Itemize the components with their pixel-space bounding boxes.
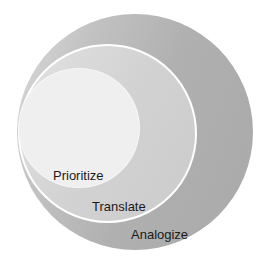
label-translate: Translate [92,200,146,213]
label-prioritize: Prioritize [53,169,104,182]
label-analogize: Analogize [131,228,188,241]
nested-circle-diagram: Prioritize Translate Analogize [0,0,267,262]
